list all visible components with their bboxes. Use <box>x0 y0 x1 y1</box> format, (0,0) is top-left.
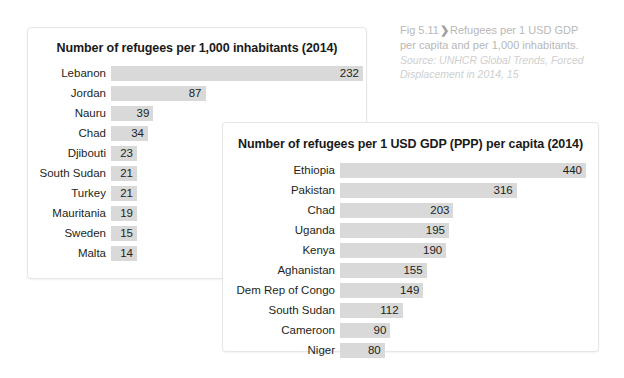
bar-category-label: Mauritania <box>28 207 111 220</box>
bar-row: Cameroon90 <box>223 320 598 340</box>
figure-screenshot: Number of refugees per 1,000 inhabitants… <box>0 0 624 378</box>
bar-row: Aghanistan155 <box>223 260 598 280</box>
bar-row: South Sudan112 <box>223 300 598 320</box>
bar-rows: Ethiopia440Pakistan316Chad203Uganda195Ke… <box>223 160 598 360</box>
bar: 90 <box>340 323 390 338</box>
bar: 21 <box>111 166 137 181</box>
bar: 21 <box>111 186 137 201</box>
bar: 112 <box>340 303 403 318</box>
bar-row: Jordan87 <box>28 83 366 103</box>
bar-row: Nauru39 <box>28 103 366 123</box>
caption-text: Fig 5.11❯Refugees per 1 USD GDP per capi… <box>400 23 590 52</box>
bar: 39 <box>111 106 153 121</box>
bar-value-label: 440 <box>563 164 582 176</box>
bar-value-label: 21 <box>120 167 133 179</box>
bar-category-label: Lebanon <box>28 67 111 80</box>
bar-category-label: Sweden <box>28 227 111 240</box>
bar: 316 <box>340 183 517 198</box>
chart-title: Number of refugees per 1,000 inhabitants… <box>28 41 366 55</box>
bar-row: Chad203 <box>223 200 598 220</box>
bar-value-label: 90 <box>374 324 387 336</box>
bar: 15 <box>111 226 137 241</box>
bar-track: 316 <box>340 183 598 198</box>
bar-category-label: Aghanistan <box>223 264 340 277</box>
bar-category-label: Ethiopia <box>223 164 340 177</box>
bar-category-label: Niger <box>223 344 340 357</box>
chevron-right-icon: ❯ <box>439 24 450 36</box>
bar-value-label: 23 <box>120 147 133 159</box>
bar-value-label: 232 <box>340 67 359 79</box>
bar-track: 87 <box>111 86 366 101</box>
bar-value-label: 80 <box>368 344 381 356</box>
bar-row: Pakistan316 <box>223 180 598 200</box>
bar-category-label: Uganda <box>223 224 340 237</box>
bar-category-label: Malta <box>28 247 111 260</box>
bar: 232 <box>111 66 363 81</box>
bar: 80 <box>340 343 385 358</box>
chart-title: Number of refugees per 1 USD GDP (PPP) p… <box>223 137 598 151</box>
bar-value-label: 155 <box>403 264 422 276</box>
bar-track: 190 <box>340 243 598 258</box>
bar-row: Niger80 <box>223 340 598 360</box>
bar-row: Lebanon232 <box>28 63 366 83</box>
bar-row: Uganda195 <box>223 220 598 240</box>
bar-track: 112 <box>340 303 598 318</box>
bar-category-label: South Sudan <box>223 304 340 317</box>
bar-value-label: 21 <box>120 187 133 199</box>
bar-category-label: Pakistan <box>223 184 340 197</box>
bar: 149 <box>340 283 423 298</box>
bar-category-label: Djibouti <box>28 147 111 160</box>
bar-category-label: Cameroon <box>223 324 340 337</box>
bar-value-label: 19 <box>120 207 133 219</box>
chart-panel-refugees-per-usd-gdp: Number of refugees per 1 USD GDP (PPP) p… <box>222 122 599 352</box>
bar-track: 39 <box>111 106 366 121</box>
bar-row: Dem Rep of Congo149 <box>223 280 598 300</box>
bar-track: 232 <box>111 66 366 81</box>
bar: 19 <box>111 206 137 221</box>
bar-row: Ethiopia440 <box>223 160 598 180</box>
bar-category-label: Nauru <box>28 107 111 120</box>
bar-value-label: 14 <box>120 247 133 259</box>
bar-track: 80 <box>340 343 598 358</box>
bar-category-label: Chad <box>223 204 340 217</box>
bar: 34 <box>111 126 148 141</box>
bar-category-label: Turkey <box>28 187 111 200</box>
bar-value-label: 34 <box>131 127 144 139</box>
bar-row: Kenya190 <box>223 240 598 260</box>
bar-value-label: 112 <box>380 304 398 316</box>
bar-category-label: Chad <box>28 127 111 140</box>
bar-category-label: South Sudan <box>28 167 111 180</box>
bar: 23 <box>111 146 137 161</box>
bar: 195 <box>340 223 449 238</box>
bar: 203 <box>340 203 453 218</box>
bar-track: 149 <box>340 283 598 298</box>
bar-track: 440 <box>340 163 598 178</box>
bar-value-label: 87 <box>189 87 202 99</box>
bar-track: 155 <box>340 263 598 278</box>
bar-track: 203 <box>340 203 598 218</box>
bar-track: 195 <box>340 223 598 238</box>
bar-value-label: 203 <box>430 204 449 216</box>
bar-value-label: 190 <box>423 244 442 256</box>
bar-category-label: Dem Rep of Congo <box>223 284 340 297</box>
caption-source: Source: UNHCR Global Trends, Forced Disp… <box>400 53 590 81</box>
bar-category-label: Kenya <box>223 244 340 257</box>
bar: 155 <box>340 263 427 278</box>
bar-category-label: Jordan <box>28 87 111 100</box>
bar: 14 <box>111 246 137 261</box>
bar: 190 <box>340 243 446 258</box>
bar-value-label: 39 <box>137 107 150 119</box>
figure-number: Fig 5.11 <box>400 24 439 36</box>
bar-value-label: 149 <box>400 284 419 296</box>
figure-caption: Fig 5.11❯Refugees per 1 USD GDP per capi… <box>400 23 590 81</box>
bar-track: 90 <box>340 323 598 338</box>
bar-value-label: 316 <box>493 184 512 196</box>
bar-value-label: 15 <box>120 227 133 239</box>
bar-value-label: 195 <box>426 224 445 236</box>
bar: 440 <box>340 163 586 178</box>
bar: 87 <box>111 86 206 101</box>
